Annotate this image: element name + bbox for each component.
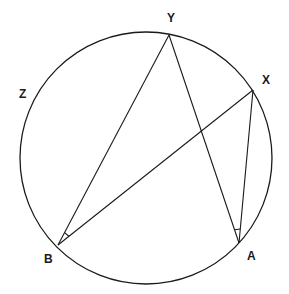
angle-mark-A [235, 229, 241, 230]
circle [20, 32, 272, 284]
label-X: X [262, 74, 270, 86]
label-Y: Y [167, 12, 175, 24]
circle-diagram [0, 0, 289, 294]
segment-XA [239, 90, 253, 243]
angle-mark-B [65, 233, 69, 237]
segment-BY [58, 35, 169, 245]
label-A: A [247, 250, 256, 262]
label-Z: Z [19, 88, 26, 100]
label-B: B [44, 253, 53, 265]
segment-BX [58, 90, 253, 245]
segment-YA [169, 35, 239, 243]
